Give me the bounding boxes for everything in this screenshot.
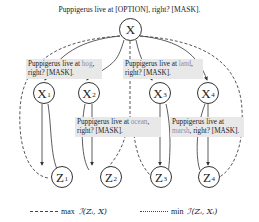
node-z1: Z1: [51, 166, 73, 188]
prompt-text: right? [MASK].: [77, 127, 123, 135]
node-x: X: [119, 18, 142, 41]
node-x4: X4: [197, 82, 219, 104]
node-z2: Z2: [100, 166, 122, 188]
prompt-text: , right? [MASK].: [190, 127, 240, 135]
option-word: ocean: [131, 118, 148, 126]
prompt-text: ,: [191, 60, 193, 68]
legend-op: max: [61, 207, 75, 216]
prompt-box-ocean: Puppigerus live at ocean, right? [MASK].: [75, 117, 161, 137]
prompt-text: ,: [92, 60, 94, 68]
option-word: bog: [82, 60, 93, 68]
prompt-text: Puppigerus live at: [28, 60, 82, 68]
legend-dashed: max ℐ(Zᵢ, X): [30, 207, 107, 216]
legend-op: min: [171, 207, 183, 216]
node-x2: X2: [78, 82, 100, 104]
node-z4: Z4: [198, 166, 220, 188]
node-x1: X1: [33, 82, 55, 104]
prompt-box-bog: Puppigerus live at bog, right? [MASK].: [26, 59, 102, 79]
option-word: land: [179, 60, 191, 68]
prompt-text: right? [MASK].: [125, 69, 171, 77]
prompt-box-land: Puppigerus live at land, right? [MASK].: [123, 59, 203, 79]
prompt-box-marsh: Puppigerus live at marsh, right? [MASK].: [170, 117, 244, 137]
dotted-line-icon: [140, 211, 168, 212]
option-word: marsh: [172, 127, 190, 135]
prompt-text: ,: [147, 118, 149, 126]
prompt-text: Puppigerus live at: [77, 118, 131, 126]
legend-dotted: min ℐ(Zᵢ, Xᵢ): [140, 207, 217, 216]
dashed-line-icon: [30, 211, 58, 212]
legend-expr: ℐ(Zᵢ, Xᵢ): [187, 207, 217, 216]
prompt-text: Puppigerus live at: [125, 60, 179, 68]
prompt-text: right? [MASK].: [28, 69, 74, 77]
legend-expr: ℐ(Zᵢ, X): [79, 207, 107, 216]
node-z3: Z3: [150, 166, 172, 188]
prompt-text: Puppigerus live at: [172, 118, 224, 126]
node-x3: X3: [149, 82, 171, 104]
